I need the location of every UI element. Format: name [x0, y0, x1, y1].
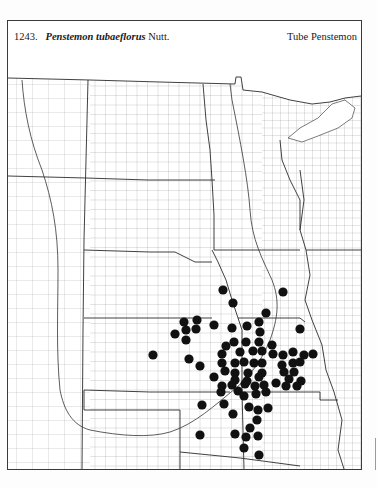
- record-dot: [278, 350, 287, 359]
- record-dot: [235, 347, 244, 356]
- record-dot: [209, 372, 218, 381]
- record-dot: [192, 315, 201, 324]
- record-dot: [197, 400, 206, 409]
- record-dot: [239, 357, 248, 366]
- record-dot: [254, 317, 263, 326]
- record-dot: [253, 405, 262, 414]
- record-dot: [268, 349, 277, 358]
- record-dot: [219, 399, 228, 408]
- record-dot: [216, 387, 225, 396]
- record-dot: [209, 320, 218, 329]
- record-dot: [195, 430, 204, 439]
- base-map: [8, 77, 361, 469]
- record-dot: [218, 285, 227, 294]
- record-dot: [217, 358, 226, 367]
- record-dot: [240, 379, 249, 388]
- record-dot: [239, 391, 248, 400]
- record-dot: [278, 287, 287, 296]
- record-dot: [184, 354, 193, 363]
- record-dot: [263, 403, 272, 412]
- record-dot: [295, 357, 304, 366]
- record-dot: [228, 298, 237, 307]
- record-dot: [241, 337, 250, 346]
- county-grid-east: [262, 92, 361, 469]
- record-dot: [254, 337, 263, 346]
- distribution-map: [0, 0, 377, 488]
- record-dot: [239, 443, 248, 452]
- record-dot: [179, 317, 188, 326]
- record-dot: [220, 366, 229, 375]
- record-dot: [253, 431, 262, 440]
- record-dot: [242, 321, 251, 330]
- record-dot: [170, 329, 179, 338]
- record-dot: [248, 346, 257, 355]
- record-dot: [230, 358, 239, 367]
- record-dot: [255, 327, 264, 336]
- record-dot: [228, 409, 237, 418]
- record-dot: [254, 372, 263, 381]
- record-dot: [249, 358, 258, 367]
- record-dot: [230, 429, 239, 438]
- record-dot: [257, 358, 266, 367]
- page-edge-mark: [375, 438, 376, 470]
- record-dot: [250, 381, 259, 390]
- record-dot: [227, 323, 236, 332]
- record-dot: [181, 325, 190, 334]
- record-dot: [252, 415, 261, 424]
- record-dot: [271, 378, 280, 387]
- record-dot: [241, 432, 250, 441]
- record-dot: [295, 324, 304, 333]
- record-dot: [229, 337, 238, 346]
- record-dot: [191, 324, 200, 333]
- record-dot: [288, 347, 297, 356]
- record-dot: [221, 341, 230, 350]
- record-dot: [261, 387, 270, 396]
- record-dot: [251, 389, 260, 398]
- record-dot: [244, 402, 253, 411]
- county-grid-west: [8, 78, 90, 469]
- record-dot: [148, 350, 157, 359]
- record-dot: [217, 349, 226, 358]
- record-dot: [281, 381, 290, 390]
- record-dot: [254, 450, 263, 459]
- record-dot: [267, 340, 276, 349]
- record-dot: [245, 423, 254, 432]
- record-dot: [195, 361, 204, 370]
- map-page: 1243. Penstemon tubaeflorus Nutt. Tube P…: [0, 0, 377, 488]
- record-dot: [292, 381, 301, 390]
- record-dot: [308, 349, 317, 358]
- record-dot: [261, 308, 270, 317]
- record-dot: [243, 368, 252, 377]
- record-dot: [257, 346, 266, 355]
- record-dot: [181, 335, 190, 344]
